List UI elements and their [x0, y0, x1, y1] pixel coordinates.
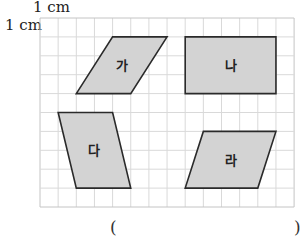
- grid-diagram: 가나다라: [0, 0, 300, 244]
- shape-1: 가: [76, 37, 167, 94]
- shape-label: 라: [225, 153, 237, 168]
- shape-4: 라: [185, 131, 276, 188]
- shape-2: 나: [185, 37, 276, 94]
- answer-open-paren: (: [110, 219, 117, 236]
- shape-label: 나: [225, 58, 237, 73]
- shape-label: 가: [116, 58, 128, 73]
- answer-close-paren: ): [294, 219, 300, 236]
- shape-3: 다: [58, 113, 131, 189]
- shape-label: 다: [88, 143, 100, 158]
- answer-input[interactable]: [122, 219, 292, 237]
